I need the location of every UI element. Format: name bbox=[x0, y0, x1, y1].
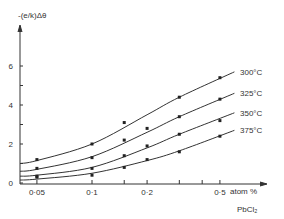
data-point bbox=[178, 150, 181, 153]
data-point bbox=[123, 121, 126, 124]
data-point bbox=[35, 175, 38, 178]
data-point bbox=[146, 144, 149, 147]
x-tick-label: 0·05 bbox=[29, 188, 46, 197]
x-axis-label: atom % bbox=[230, 187, 257, 196]
y-tick-label: 6 bbox=[9, 62, 14, 71]
data-point bbox=[91, 156, 94, 159]
x-axis-arrow-icon bbox=[260, 182, 267, 186]
data-point bbox=[146, 158, 149, 161]
series-line-0 bbox=[20, 72, 234, 164]
x-axis-sublabel: PbCl₂ bbox=[237, 205, 257, 214]
data-point bbox=[178, 115, 181, 118]
data-point bbox=[35, 167, 38, 170]
y-axis-label: -(e/k)Δθ bbox=[18, 11, 47, 20]
data-point bbox=[91, 143, 94, 146]
data-point bbox=[35, 158, 38, 161]
data-point bbox=[218, 135, 221, 138]
data-point bbox=[218, 76, 221, 79]
series-curves bbox=[20, 72, 234, 180]
series-label: 375°C bbox=[240, 126, 263, 135]
data-point bbox=[91, 174, 94, 177]
data-point bbox=[123, 166, 126, 169]
data-point bbox=[178, 96, 181, 99]
data-point bbox=[218, 119, 221, 122]
data-point bbox=[123, 139, 126, 142]
series-label: 325°C bbox=[240, 89, 263, 98]
x-tick-label: 0·2 bbox=[141, 188, 153, 197]
chart: 02460·050·10·20·5-(e/k)Δθatom %PbCl₂300°… bbox=[0, 0, 284, 219]
data-point bbox=[146, 127, 149, 130]
data-point bbox=[123, 154, 126, 157]
data-point bbox=[178, 133, 181, 136]
series-label: 300°C bbox=[240, 68, 263, 77]
y-tick-label: 2 bbox=[9, 140, 14, 149]
series-label: 350°C bbox=[240, 109, 263, 118]
x-tick-label: 0·5 bbox=[214, 188, 226, 197]
data-point bbox=[91, 167, 94, 170]
y-tick-label: 4 bbox=[9, 101, 14, 110]
x-tick-label: 0·1 bbox=[86, 188, 98, 197]
data-point bbox=[218, 98, 221, 101]
y-tick-label: 0 bbox=[9, 179, 14, 188]
y-axis-arrow-icon bbox=[18, 25, 22, 32]
series-line-1 bbox=[20, 93, 234, 171]
data-points bbox=[35, 76, 221, 178]
